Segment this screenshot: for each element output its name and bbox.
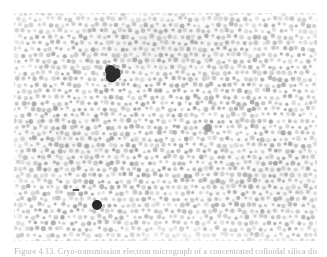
figure-caption: Figure 4.13. Cryo-transmission electron … — [14, 246, 317, 257]
micrograph-plate — [14, 13, 317, 241]
figure-root: Figure 4.13. Cryo-transmission electron … — [0, 0, 327, 257]
figure-caption-text: Figure 4.13. Cryo-transmission electron … — [14, 247, 317, 256]
particle-field-canvas — [14, 13, 317, 241]
